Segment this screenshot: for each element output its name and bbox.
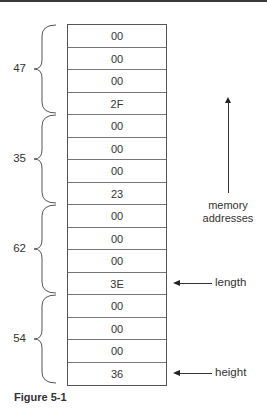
- memory-cell: 00: [68, 160, 166, 183]
- memory-cell: 00: [68, 25, 166, 48]
- memory-cell: 23: [68, 183, 166, 206]
- top-rule: [0, 0, 267, 2]
- brace-icon: [28, 204, 60, 294]
- group-label-47: 47: [4, 62, 26, 74]
- figure-caption: Figure 5-1: [14, 391, 67, 403]
- group-label-35: 35: [4, 152, 26, 164]
- memory-cell: 00: [68, 48, 166, 71]
- memory-cell: 00: [68, 318, 166, 341]
- memory-addresses-label-line1: memory: [192, 199, 264, 212]
- address-direction-line: [228, 102, 229, 193]
- memory-cell: 00: [68, 295, 166, 318]
- brace-icon: [28, 294, 60, 384]
- length-pointer-line: [179, 283, 212, 284]
- memory-cell: 2F: [68, 93, 166, 116]
- height-label: height: [215, 366, 246, 378]
- group-label-54: 54: [4, 332, 26, 344]
- memory-cell: 00: [68, 340, 166, 363]
- memory-cell: 3E: [68, 273, 166, 296]
- memory-cell: 00: [68, 228, 166, 251]
- memory-cell: 00: [68, 115, 166, 138]
- brace-icon: [28, 24, 60, 114]
- memory-cell: 36: [68, 363, 166, 386]
- memory-cell: 00: [68, 138, 166, 161]
- brace-icon: [28, 114, 60, 204]
- memory-cell: 00: [68, 250, 166, 273]
- group-label-62: 62: [4, 242, 26, 254]
- length-label: length: [215, 276, 246, 288]
- memory-cell: 00: [68, 70, 166, 93]
- memory-addresses-label-line2: addresses: [192, 212, 264, 225]
- memory-cell: 00: [68, 205, 166, 228]
- memory-block: 00 00 00 2F 00 00 00 23 00 00 00 3E 00 0…: [67, 24, 167, 386]
- height-pointer-line: [179, 373, 212, 374]
